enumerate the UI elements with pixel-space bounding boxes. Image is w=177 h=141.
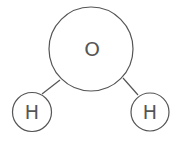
atom-hydrogen-right: H	[131, 93, 169, 131]
atom-oxygen: O	[49, 7, 133, 91]
bond-left	[42, 80, 60, 94]
atom-oxygen-label: O	[84, 37, 100, 61]
atom-hydrogen-right-label: H	[143, 101, 157, 123]
water-molecule-diagram: O H H	[0, 0, 177, 141]
atom-hydrogen-left: H	[13, 93, 52, 132]
atom-hydrogen-left-label: H	[25, 101, 39, 123]
bond-right	[123, 78, 138, 95]
